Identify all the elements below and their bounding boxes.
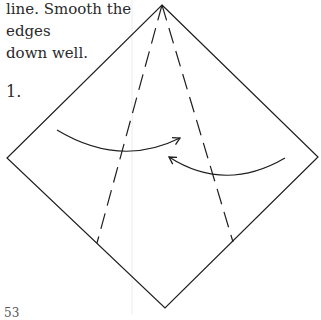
valley-fold-right [162, 5, 233, 242]
page-number: 53 [4, 306, 19, 320]
valley-fold-left [97, 5, 162, 243]
left-flap-arrow-icon [57, 130, 180, 151]
paper-square-outline [7, 5, 318, 308]
right-flap-arrow-icon [169, 157, 285, 175]
